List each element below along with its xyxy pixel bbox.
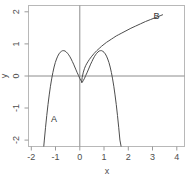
y-axis-tick-labels: -2 -1 0 1 2 xyxy=(11,9,21,144)
curve-a-path xyxy=(44,51,122,148)
x-tick-label: -2 xyxy=(27,152,35,162)
y-tick-label: -1 xyxy=(11,104,21,112)
y-tick-label: 0 xyxy=(11,73,21,78)
x-axis-tick-labels: -2 -1 0 1 2 3 4 xyxy=(27,152,179,162)
curve-b-label: B xyxy=(153,11,159,21)
x-tick-label: 4 xyxy=(174,152,179,162)
y-axis-ticks xyxy=(25,12,29,140)
y-tick-label: -2 xyxy=(11,136,21,144)
x-tick-label: 1 xyxy=(101,152,106,162)
x-tick-label: -1 xyxy=(51,152,59,162)
curve-a-label: A xyxy=(51,114,57,124)
x-tick-label: 2 xyxy=(126,152,131,162)
chart-screenshot: -2 -1 0 1 2 3 4 -2 -1 0 1 2 x y xyxy=(0,0,190,179)
x-tick-label: 3 xyxy=(150,152,155,162)
curve-b-path xyxy=(82,15,163,83)
plot-area: -2 -1 0 1 2 3 4 -2 -1 0 1 2 x y xyxy=(0,0,190,179)
y-axis-title: y xyxy=(0,73,9,78)
x-axis-ticks xyxy=(31,147,177,151)
x-tick-label: 0 xyxy=(77,152,82,162)
y-tick-label: 1 xyxy=(11,41,21,46)
y-tick-label: 2 xyxy=(11,9,21,14)
x-axis-title: x xyxy=(105,166,110,176)
